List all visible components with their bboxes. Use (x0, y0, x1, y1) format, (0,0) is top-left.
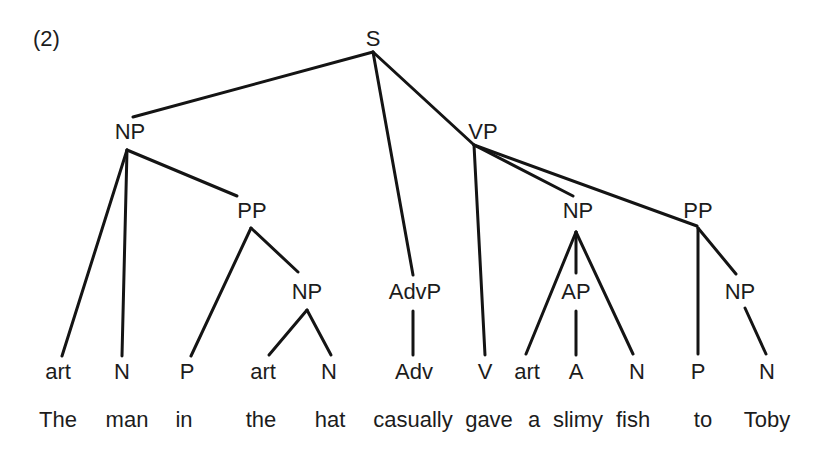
tree-node-v: V (478, 359, 493, 384)
sentence-word: Toby (744, 407, 790, 432)
tree-edge-np2-n2 (307, 310, 331, 355)
tree-edges (62, 52, 766, 356)
sentence-word: fish (616, 407, 650, 432)
tree-node-np3: NP (563, 198, 594, 223)
tree-node-vp: VP (468, 119, 497, 144)
tree-node-adv: Adv (395, 359, 433, 384)
tree-node-n1: N (114, 359, 130, 384)
tree-edge-np1-n1 (122, 150, 127, 356)
tree-node-pp1: PP (237, 198, 266, 223)
tree-node-s: S (366, 26, 381, 51)
tree-edge-pp1-np2 (251, 228, 298, 272)
tree-node-pp2: PP (683, 198, 712, 223)
tree-edge-vp-np3 (474, 145, 573, 196)
tree-nodes: SNPPPNPAdvPVPNPAPPPNPartNPartNAdvVartANP… (45, 26, 775, 384)
sentence-word: hat (315, 407, 346, 432)
tree-node-n4: N (759, 359, 775, 384)
sentence-word: man (106, 407, 149, 432)
sentence-word: to (694, 407, 712, 432)
tree-node-a: A (569, 359, 584, 384)
tree-node-p2: P (691, 359, 706, 384)
sentence-word: gave (465, 407, 513, 432)
tree-node-advp: AdvP (389, 279, 442, 304)
sentence-word: casually (373, 407, 452, 432)
syntax-tree-diagram: (2) SNPPPNPAdvPVPNPAPPPNPartNPartNAdvVar… (0, 0, 828, 454)
sentence-word: the (246, 407, 277, 432)
tree-node-art2: art (250, 359, 276, 384)
sentence-word: slimy (553, 407, 603, 432)
sentence-word: a (528, 407, 541, 432)
sentence-word: The (39, 407, 77, 432)
tree-node-np2: NP (292, 279, 323, 304)
tree-node-ap: AP (561, 279, 590, 304)
example-number: (2) (33, 26, 60, 51)
tree-edge-np4-n4 (745, 308, 766, 354)
tree-edge-s-np1 (133, 52, 373, 117)
tree-node-np1: NP (115, 119, 146, 144)
tree-node-art1: art (45, 359, 71, 384)
tree-node-n3: N (629, 359, 645, 384)
tree-edge-s-advp (373, 52, 413, 275)
tree-node-n2: N (321, 359, 337, 384)
tree-node-np4: NP (725, 279, 756, 304)
tree-edge-np1-art1 (62, 150, 127, 356)
tree-edge-pp1-p1 (191, 228, 251, 356)
tree-edge-vp-v (474, 145, 485, 355)
sentence-words: ThemaninthehatcasuallygaveaslimyfishtoTo… (39, 407, 790, 432)
tree-node-p1: P (180, 359, 195, 384)
tree-node-art3: art (514, 359, 540, 384)
tree-edge-np1-pp1 (127, 150, 237, 196)
tree-edge-np2-art2 (269, 310, 307, 355)
tree-edge-pp2-np4 (698, 228, 736, 274)
sentence-word: in (175, 407, 192, 432)
